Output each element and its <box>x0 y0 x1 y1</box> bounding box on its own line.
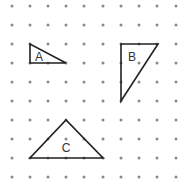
grid-dot <box>29 119 32 122</box>
grid-dot <box>11 62 14 65</box>
grid-dot <box>65 100 68 103</box>
dot-grid-diagram: ABC <box>0 0 194 188</box>
grid-dot <box>120 24 123 27</box>
grid-dot <box>175 138 178 141</box>
grid-dot <box>120 5 123 8</box>
grid-dot <box>138 5 141 8</box>
grid-dot <box>83 5 86 8</box>
grid-dot <box>138 24 141 27</box>
grid-dot <box>11 24 14 27</box>
grid-dot <box>11 138 14 141</box>
grid-dot <box>175 43 178 46</box>
grid-dot <box>47 5 50 8</box>
grid-dot <box>65 43 68 46</box>
grid-dot <box>83 24 86 27</box>
grid-dot <box>156 100 159 103</box>
grid-dot <box>102 176 105 179</box>
grid-dot <box>47 43 50 46</box>
grid-dot <box>156 157 159 160</box>
grid-dot <box>83 62 86 65</box>
grid-dot <box>138 157 141 160</box>
grid-dot <box>102 43 105 46</box>
grid-dot <box>83 176 86 179</box>
triangle-b: B <box>121 44 158 101</box>
grid-dot <box>11 81 14 84</box>
grid-dot <box>175 119 178 122</box>
grid-dot <box>175 5 178 8</box>
grid-dot <box>102 62 105 65</box>
grid-dot <box>47 81 50 84</box>
grid-dot <box>138 119 141 122</box>
grid-dot <box>156 24 159 27</box>
grid-dot <box>11 100 14 103</box>
grid-dot <box>11 157 14 160</box>
grid-dot <box>175 24 178 27</box>
triangle-a: A <box>30 44 66 64</box>
triangle-label: B <box>128 50 136 64</box>
grid-dot <box>29 24 32 27</box>
grid-dot <box>120 176 123 179</box>
grid-dot <box>29 5 32 8</box>
grid-dot <box>29 100 32 103</box>
grid-dot <box>175 157 178 160</box>
grid-dot <box>83 119 86 122</box>
grid-dot <box>65 5 68 8</box>
grid-dot <box>11 119 14 122</box>
grid-dot <box>29 81 32 84</box>
grid-dot <box>47 100 50 103</box>
triangle-label: A <box>35 50 43 64</box>
grid-dot <box>29 176 32 179</box>
grid-dot <box>156 62 159 65</box>
grid-dot <box>29 138 32 141</box>
grid-dot <box>156 119 159 122</box>
grid-dot <box>83 81 86 84</box>
grid-dot <box>156 81 159 84</box>
grid-dot <box>102 81 105 84</box>
grid-dot <box>47 119 50 122</box>
grid-dot <box>138 62 141 65</box>
grid-dot <box>175 81 178 84</box>
grid-dot <box>83 43 86 46</box>
grid-dot <box>102 5 105 8</box>
grid-dot <box>156 5 159 8</box>
grid-dot <box>11 176 14 179</box>
grid-dot <box>138 100 141 103</box>
grid-dot <box>65 81 68 84</box>
grid-dot <box>11 43 14 46</box>
grid-dot <box>175 176 178 179</box>
grid-dot <box>156 176 159 179</box>
grid-dot <box>65 24 68 27</box>
grid-dot <box>120 138 123 141</box>
triangle-outline <box>121 44 158 101</box>
grid-dot <box>138 176 141 179</box>
grid-dot <box>175 62 178 65</box>
grid-dot <box>47 24 50 27</box>
grid-dot <box>156 138 159 141</box>
grid-dot <box>47 176 50 179</box>
grid-dot <box>120 119 123 122</box>
grid-dot <box>102 100 105 103</box>
grid-dot <box>138 81 141 84</box>
grid-dot <box>138 138 141 141</box>
grid-dot <box>65 176 68 179</box>
grid-dot <box>175 100 178 103</box>
grid-dot <box>102 138 105 141</box>
grid-dot <box>102 119 105 122</box>
grid-dot <box>120 157 123 160</box>
triangle-label: C <box>62 141 71 155</box>
grid-dot <box>11 5 14 8</box>
grid-dot <box>83 100 86 103</box>
grid-dot <box>102 24 105 27</box>
